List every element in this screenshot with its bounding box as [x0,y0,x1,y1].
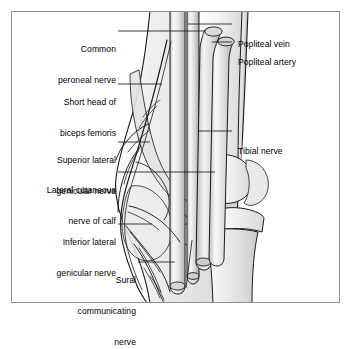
popliteal-artery-cut-end-top [205,27,222,36]
popliteal-vein-branch-cut-end [218,37,234,46]
popliteal-vein-vessel [170,11,185,294]
label-line: nerve [26,337,136,347]
label-popliteal-artery: Popliteal artery [238,37,344,78]
label-line: Short head of [18,97,116,107]
tibial-nerve-cut-end [187,273,199,280]
label-line: Sural [26,275,136,285]
label-line: Inferior lateral [14,237,116,247]
label-line: Popliteal artery [238,57,344,67]
label-line: Common [18,44,116,54]
label-tibial-nerve: Tibial nerve [238,126,344,167]
popliteal-vein-cut-end [170,282,185,290]
label-line: Tibial nerve [238,146,344,156]
label-line: Lateral cutaneous [10,185,116,195]
label-line: communicating [26,306,136,316]
label-sural-communicating-nerve: Sural communicating nerve [26,255,136,349]
